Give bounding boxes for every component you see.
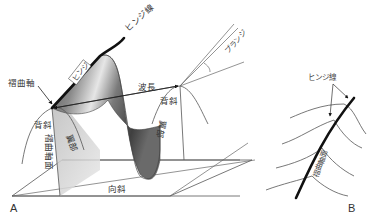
fold-structure-diagram: ヒンジ線 ヒンジ 褶曲軸 波長 プランジ 背斜 背斜 褶曲軸面 翼部 翼部 向斜… [0, 0, 377, 216]
axial-plane-label: 褶曲軸面 [44, 134, 54, 170]
layer-curve-1 [290, 104, 366, 134]
panel-a-label: A [10, 202, 18, 214]
hinge-line-label: ヒンジ線 [123, 2, 156, 34]
anticline-right-label: 背斜 [160, 96, 178, 106]
hinge-line-b [296, 98, 354, 198]
fold-axis-label: 褶曲軸 [8, 78, 35, 88]
plunge-indicator: プランジ [180, 24, 249, 86]
panel-b-label: B [348, 202, 355, 214]
panel-a: ヒンジ線 ヒンジ 褶曲軸 波長 プランジ 背斜 背斜 褶曲軸面 翼部 翼部 向斜… [8, 2, 255, 214]
panel-b: ヒンジ線 褶曲軸面 B [266, 72, 366, 214]
wavelength-label: 波長 [138, 82, 156, 92]
syncline-label: 向斜 [108, 184, 126, 194]
limb-right-label: 翼部 [155, 120, 168, 139]
layer-curve-4 [266, 176, 348, 196]
anticline-left-label: 背斜 [34, 120, 52, 130]
hinge-line-label-b: ヒンジ線 [308, 72, 337, 82]
